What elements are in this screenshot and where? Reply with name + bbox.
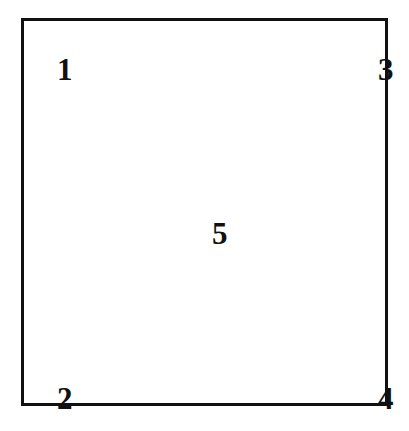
- region-label-center: 5: [212, 218, 228, 249]
- region-rectangle: 1 3 5 2 4: [21, 18, 388, 406]
- region-label-top-left: 1: [57, 54, 73, 85]
- region-label-bottom-left: 2: [57, 383, 73, 414]
- figure-canvas: 1 3 5 2 4: [0, 0, 409, 431]
- region-label-bottom-right: 4: [378, 383, 394, 414]
- region-label-top-right: 3: [378, 54, 394, 85]
